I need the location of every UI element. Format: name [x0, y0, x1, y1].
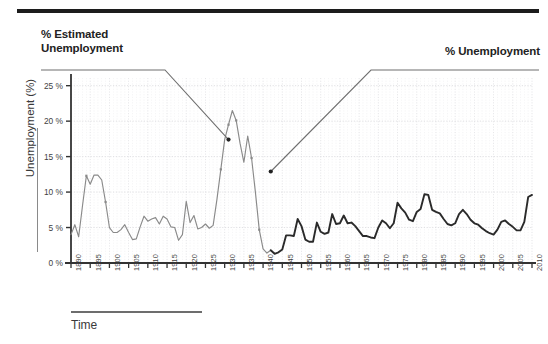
x-tick-label: 1890: [74, 254, 83, 271]
y-tick-label: 15 %: [25, 152, 63, 162]
x-tick-label: 1995: [478, 254, 487, 271]
unemployment-figure: % Estimated Unemployment % Unemployment …: [0, 0, 548, 344]
y-tick-label: 0 %: [25, 258, 63, 268]
x-tick-label: 1895: [94, 254, 103, 271]
y-tick-label: 20 %: [25, 116, 63, 126]
x-tick-label: 1975: [401, 254, 410, 271]
x-tick-label: 1945: [286, 254, 295, 271]
x-tick-label: 1935: [247, 254, 256, 271]
x-tick-label: 1970: [382, 254, 391, 271]
x-tick-label: 1900: [113, 254, 122, 271]
y-tick-label: 25 %: [25, 81, 63, 91]
x-tick-label: 1965: [362, 254, 371, 271]
x-tick-label: 1940: [266, 254, 275, 271]
x-tick-label: 1985: [439, 254, 448, 271]
x-tick-label: 1955: [324, 254, 333, 271]
x-tick-label: 1920: [190, 254, 199, 271]
x-tick-label: 1960: [343, 254, 352, 271]
y-tick-label: 10 %: [25, 187, 63, 197]
x-tick-label: 1910: [151, 254, 160, 271]
x-tick-label: 1950: [305, 254, 314, 271]
x-tick-label: 1925: [209, 254, 218, 271]
x-tick-label: 1905: [132, 254, 141, 271]
y-tick-label: 5 %: [25, 223, 63, 233]
x-tick-label: 1980: [420, 254, 429, 271]
x-tick-label: 1930: [228, 254, 237, 271]
x-tick-label: 1990: [458, 254, 467, 271]
x-tick-label: 2005: [516, 254, 525, 271]
x-tick-label: 2000: [497, 254, 506, 271]
x-tick-label: 1915: [170, 254, 179, 271]
x-tick-label: 2010: [535, 254, 544, 271]
chart-plot-area: [0, 0, 548, 344]
